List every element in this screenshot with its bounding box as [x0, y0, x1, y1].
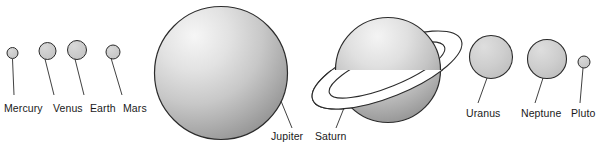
planet-pluto [578, 56, 590, 103]
label-earth: Earth [90, 103, 116, 114]
planet-size-diagram: Mercury Venus Earth Mars Jupiter Saturn … [0, 0, 602, 151]
label-saturn: Saturn [315, 131, 347, 142]
label-mercury: Mercury [4, 103, 43, 114]
planet-earth [68, 41, 87, 96]
planet-mars [106, 45, 122, 95]
planet-uranus [470, 36, 513, 104]
planet-saturn [303, 15, 472, 128]
label-pluto: Pluto [571, 108, 595, 119]
label-uranus: Uranus [466, 108, 500, 119]
solar-system-illustration [0, 0, 602, 151]
planet-venus [39, 43, 56, 96]
planet-jupiter [155, 7, 293, 140]
planet-neptune [528, 40, 567, 104]
label-venus: Venus [53, 103, 83, 114]
label-neptune: Neptune [521, 108, 561, 119]
label-jupiter: Jupiter [271, 131, 303, 142]
planet-mercury [7, 48, 18, 96]
label-mars: Mars [123, 103, 147, 114]
